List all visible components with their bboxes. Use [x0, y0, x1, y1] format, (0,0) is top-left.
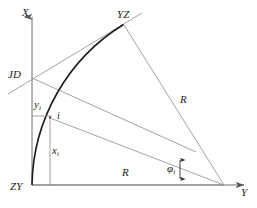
circular-curve-arc: [32, 25, 124, 186]
angle-label-phi: φi: [167, 163, 175, 176]
radius-line-center-point-i: [50, 118, 224, 185]
x-axis-label: X: [22, 7, 29, 18]
offset-x-subscript: i: [57, 150, 59, 158]
radius-label-bottom: R: [122, 167, 129, 178]
curve-start-label-zy: ZY: [10, 181, 23, 192]
angle-subscript: i: [173, 168, 175, 176]
radius-line-center-yz: [124, 25, 224, 185]
radius-label-right: R: [180, 94, 187, 105]
point-i-marker: [49, 117, 51, 119]
curve-end-label-yz: YZ: [117, 9, 130, 20]
offset-y-label: yi: [34, 99, 41, 112]
offset-x-label: xi: [52, 145, 59, 158]
intersection-point-label-jd: JD: [8, 69, 21, 80]
curve-point-label-i: i: [57, 111, 60, 121]
y-axis-label: Y: [241, 187, 247, 198]
figure-container: X Y ZY YZ JD i R R yi xi φi: [0, 0, 257, 208]
offset-y-subscript: i: [39, 104, 41, 112]
